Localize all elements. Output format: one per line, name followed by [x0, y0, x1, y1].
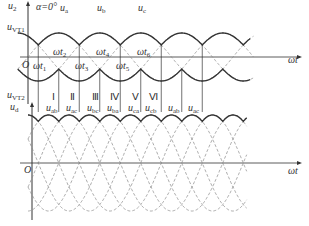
origin-label-top: O — [22, 60, 29, 70]
ua-label: ua — [60, 3, 68, 16]
uab-label-2: uab — [168, 103, 180, 116]
uab-label-1: uab — [46, 103, 58, 116]
alpha-label: α=0° — [36, 2, 57, 12]
uvt1-label: uVT1 — [7, 22, 25, 35]
u2-axis-label: u2 — [8, 1, 17, 14]
wt5-label: ωt5 — [116, 61, 129, 74]
wt6-label: ωt6 — [137, 47, 150, 60]
ubc-label: ubc — [87, 103, 99, 116]
rectifier-waveform-diagram: u2 α=0° ua ub uc uVT1 O ωt ωt1 ωt2 ωt3 ω… — [0, 0, 309, 226]
wt4-label: ωt4 — [96, 47, 109, 60]
uc-label: uc — [138, 3, 146, 16]
uac-label-2: uac — [188, 103, 199, 116]
uca-label: uca — [128, 103, 139, 116]
uba-label: uba — [107, 103, 119, 116]
ucb-label: ucb — [145, 103, 157, 116]
omega-t-axis-label-top: ωt — [288, 55, 298, 65]
interval-1-label: Ⅰ — [52, 92, 55, 102]
wt2-label: ωt2 — [53, 47, 66, 60]
ub-label: ub — [97, 3, 106, 16]
interval-6-label: Ⅵ — [149, 92, 158, 102]
wt1-label: ωt1 — [33, 61, 46, 74]
interval-4-label: Ⅳ — [110, 92, 119, 102]
origin-label-bottom: O — [24, 165, 31, 175]
interval-3-label: Ⅲ — [92, 92, 99, 102]
uac-label-1: uac — [66, 103, 77, 116]
wt3-label: ωt3 — [75, 61, 88, 74]
interval-5-label: Ⅴ — [132, 92, 139, 102]
interval-2-label: Ⅱ — [70, 92, 75, 102]
omega-t-axis-label-bottom: ωt — [288, 166, 298, 176]
ud-axis-label: ud — [10, 102, 19, 115]
